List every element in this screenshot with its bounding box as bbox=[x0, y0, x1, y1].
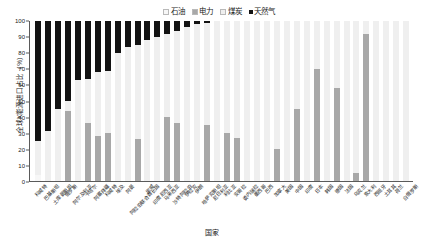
stacked-bar[interactable] bbox=[373, 21, 379, 181]
bar-column[interactable] bbox=[152, 21, 162, 181]
segment-coal bbox=[115, 53, 121, 181]
x-label-column: 利比亚 bbox=[221, 183, 231, 225]
stacked-bar[interactable] bbox=[254, 21, 260, 181]
stacked-bar[interactable] bbox=[353, 21, 359, 181]
segment-natural-gas bbox=[35, 21, 41, 141]
x-label-column: 土耳其 bbox=[381, 183, 391, 225]
stacked-bar[interactable] bbox=[55, 21, 61, 181]
stacked-bar[interactable] bbox=[314, 21, 320, 181]
bar-column[interactable] bbox=[262, 21, 272, 181]
bar-column[interactable] bbox=[53, 21, 63, 181]
stacked-bar[interactable] bbox=[224, 21, 230, 181]
legend-item[interactable]: 煤炭 bbox=[220, 8, 242, 16]
bar-column[interactable] bbox=[332, 21, 342, 181]
bar-column[interactable] bbox=[401, 21, 411, 181]
x-label-column: 委内瑞拉 bbox=[241, 183, 251, 225]
bar-column[interactable] bbox=[172, 21, 182, 181]
bar-column[interactable] bbox=[352, 21, 362, 181]
bar-column[interactable] bbox=[202, 21, 212, 181]
stacked-bar[interactable] bbox=[383, 21, 389, 181]
bar-column[interactable] bbox=[123, 21, 133, 181]
bar-column[interactable] bbox=[391, 21, 401, 181]
stacked-bar[interactable] bbox=[324, 21, 330, 181]
bar-column[interactable] bbox=[93, 21, 103, 181]
legend-item[interactable]: 电力 bbox=[192, 8, 214, 16]
x-label-column: 尼日利亚 bbox=[211, 183, 221, 225]
stacked-bar[interactable] bbox=[334, 21, 340, 181]
x-label-column: 挪威 bbox=[142, 183, 152, 225]
bar-column[interactable] bbox=[162, 21, 172, 181]
bar-column[interactable] bbox=[222, 21, 232, 181]
stacked-bar[interactable] bbox=[244, 21, 250, 181]
bar-column[interactable] bbox=[232, 21, 242, 181]
bar-column[interactable] bbox=[83, 21, 93, 181]
stacked-bar[interactable] bbox=[95, 21, 101, 181]
stacked-bar[interactable] bbox=[65, 21, 71, 181]
legend-item[interactable]: 石油 bbox=[163, 8, 185, 16]
stacked-bar[interactable] bbox=[75, 21, 81, 181]
bar-column[interactable] bbox=[133, 21, 143, 181]
stacked-bar[interactable] bbox=[204, 21, 210, 181]
stacked-bar[interactable] bbox=[115, 21, 121, 181]
bar-column[interactable] bbox=[192, 21, 202, 181]
stacked-bar[interactable] bbox=[194, 21, 200, 181]
bar-column[interactable] bbox=[43, 21, 53, 181]
stacked-bar[interactable] bbox=[184, 21, 190, 181]
stacked-bar[interactable] bbox=[393, 21, 399, 181]
stacked-bar[interactable] bbox=[264, 21, 270, 181]
bar-column[interactable] bbox=[63, 21, 73, 181]
segment-coal bbox=[373, 21, 379, 181]
stacked-bar[interactable] bbox=[164, 21, 170, 181]
stacked-bar[interactable] bbox=[304, 21, 310, 181]
bar-column[interactable] bbox=[322, 21, 332, 181]
segment-coal bbox=[344, 21, 350, 181]
bar-column[interactable] bbox=[242, 21, 252, 181]
bar-column[interactable] bbox=[302, 21, 312, 181]
segment-natural-gas bbox=[135, 21, 141, 45]
stacked-bar[interactable] bbox=[45, 21, 51, 181]
bar-column[interactable] bbox=[103, 21, 113, 181]
stacked-bar[interactable] bbox=[274, 21, 280, 181]
bar-column[interactable] bbox=[371, 21, 381, 181]
bar-column[interactable] bbox=[33, 21, 43, 181]
bar-column[interactable] bbox=[73, 21, 83, 181]
bar-column[interactable] bbox=[182, 21, 192, 181]
bar-column[interactable] bbox=[252, 21, 262, 181]
bar-column[interactable] bbox=[381, 21, 391, 181]
x-label-column: 白俄罗斯 bbox=[401, 183, 411, 225]
bar-column[interactable] bbox=[113, 21, 123, 181]
bar-column[interactable] bbox=[361, 21, 371, 181]
stacked-bar[interactable] bbox=[174, 21, 180, 181]
stacked-bar[interactable] bbox=[85, 21, 91, 181]
x-label-column: 巴西 bbox=[261, 183, 271, 225]
segment-coal bbox=[125, 47, 131, 181]
stacked-bar[interactable] bbox=[144, 21, 150, 181]
stacked-bar[interactable] bbox=[344, 21, 350, 181]
stacked-bar[interactable] bbox=[294, 21, 300, 181]
legend-swatch-icon bbox=[163, 9, 169, 15]
bar-column[interactable] bbox=[312, 21, 322, 181]
bar-column[interactable] bbox=[272, 21, 282, 181]
bar-column[interactable] bbox=[212, 21, 222, 181]
stacked-bar[interactable] bbox=[125, 21, 131, 181]
bar-column[interactable] bbox=[282, 21, 292, 181]
bar-column[interactable] bbox=[292, 21, 302, 181]
segment-natural-gas bbox=[174, 21, 180, 31]
stacked-bar[interactable] bbox=[135, 21, 141, 181]
stacked-bar[interactable] bbox=[35, 21, 41, 181]
stacked-bar[interactable] bbox=[214, 21, 220, 181]
segment-electricity bbox=[105, 133, 111, 181]
stacked-bar[interactable] bbox=[105, 21, 111, 181]
segment-electricity bbox=[234, 138, 240, 181]
stacked-bar[interactable] bbox=[284, 21, 290, 181]
legend-label: 天然气 bbox=[254, 8, 275, 16]
stacked-bar[interactable] bbox=[234, 21, 240, 181]
y-tick-label: 30 bbox=[18, 131, 25, 137]
bar-column[interactable] bbox=[342, 21, 352, 181]
legend-item[interactable]: 天然气 bbox=[249, 8, 276, 16]
x-axis-tick-labels: 科威特巴基斯坦土库曼斯坦俄罗斯阿尔及利亚卡塔尔阿塞拜疆科威特埃及阿曼阿拉伯联合酋… bbox=[30, 183, 413, 225]
stacked-bar[interactable] bbox=[403, 21, 409, 181]
stacked-bar[interactable] bbox=[154, 21, 160, 181]
stacked-bar[interactable] bbox=[363, 21, 369, 181]
bar-column[interactable] bbox=[142, 21, 152, 181]
